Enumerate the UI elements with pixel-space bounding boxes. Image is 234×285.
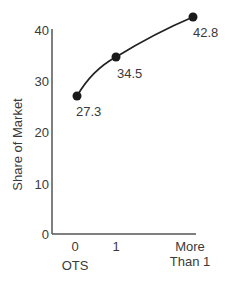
- y-tick-label: 30: [27, 75, 49, 88]
- data-label: 42.8: [193, 26, 218, 39]
- data-point: [189, 13, 198, 22]
- data-point: [112, 53, 121, 62]
- x-tick-label: 1: [86, 240, 146, 253]
- line-chart: 40 30 20 10 0 Share of Market 0 1 More T…: [0, 0, 234, 285]
- y-axis-title: Share of Market: [11, 90, 24, 200]
- y-tick-label: 20: [27, 126, 49, 139]
- y-tick-label: 40: [27, 24, 49, 37]
- data-point: [73, 92, 82, 101]
- x-tick-label: Than 1: [160, 255, 220, 268]
- data-line: [77, 17, 193, 96]
- x-axis-title: OTS: [45, 259, 105, 272]
- data-label: 34.5: [117, 67, 142, 80]
- y-tick-label: 10: [27, 178, 49, 191]
- data-label: 27.3: [76, 105, 101, 118]
- x-tick-label: More: [160, 240, 220, 253]
